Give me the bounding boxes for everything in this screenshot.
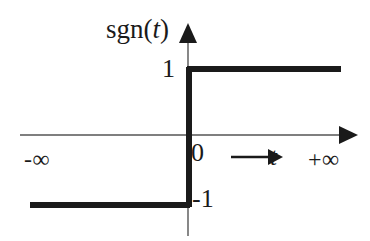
function-arg-text: t (153, 14, 161, 44)
y-tick-label-positive-one: 1 (162, 56, 175, 82)
function-close-paren: ) (160, 14, 169, 44)
vertical-axis-arrowhead (179, 23, 197, 43)
origin-label-zero: 0 (191, 140, 204, 166)
signum-function-figure: sgn(t) 1 0 -1 -∞ +∞ t (0, 0, 370, 241)
x-axis-variable-label: t (270, 144, 277, 169)
function-name-text: sgn( (106, 14, 153, 44)
horizontal-axis-arrowhead (339, 126, 358, 144)
x-axis-label-negative-infinity: -∞ (24, 147, 50, 171)
plot-canvas (0, 0, 370, 241)
y-axis-function-label: sgn(t) (106, 16, 169, 43)
y-tick-label-negative-one: -1 (192, 186, 214, 212)
x-axis-label-positive-infinity: +∞ (308, 147, 340, 171)
